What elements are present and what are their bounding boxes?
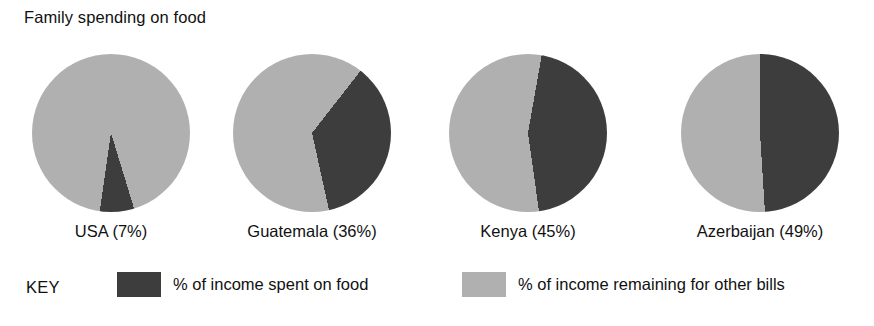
pie-chart-group: [0, 52, 874, 218]
pie-chart-usa: [23, 52, 199, 218]
legend-entry-remaining-for-bills: % of income remaining for other bills: [462, 272, 785, 297]
pie-chart-azerbaijan: [672, 52, 848, 218]
pie-disc-kenya: [449, 54, 607, 212]
pie-label-kenya: Kenya (45%): [413, 222, 643, 241]
legend-title: KEY: [26, 278, 60, 297]
legend-swatch-light: [462, 272, 506, 297]
pie-chart-guatemala: [224, 52, 400, 218]
legend-label-spent-on-food: % of income spent on food: [173, 275, 368, 294]
page-title: Family spending on food: [24, 8, 206, 27]
pie-disc-guatemala: [233, 54, 391, 212]
legend-entry-spent-on-food: % of income spent on food: [117, 272, 368, 297]
pie-chart-kenya: [440, 52, 616, 218]
legend: KEY % of income spent on food % of incom…: [0, 272, 874, 314]
legend-label-remaining-for-bills: % of income remaining for other bills: [518, 275, 785, 294]
pie-label-guatemala: Guatemala (36%): [197, 222, 427, 241]
pie-label-azerbaijan: Azerbaijan (49%): [645, 222, 874, 241]
pie-label-usa: USA (7%): [0, 222, 226, 241]
pie-disc-azerbaijan: [681, 54, 839, 212]
pie-disc-usa: [32, 54, 190, 212]
legend-swatch-dark: [117, 272, 161, 297]
